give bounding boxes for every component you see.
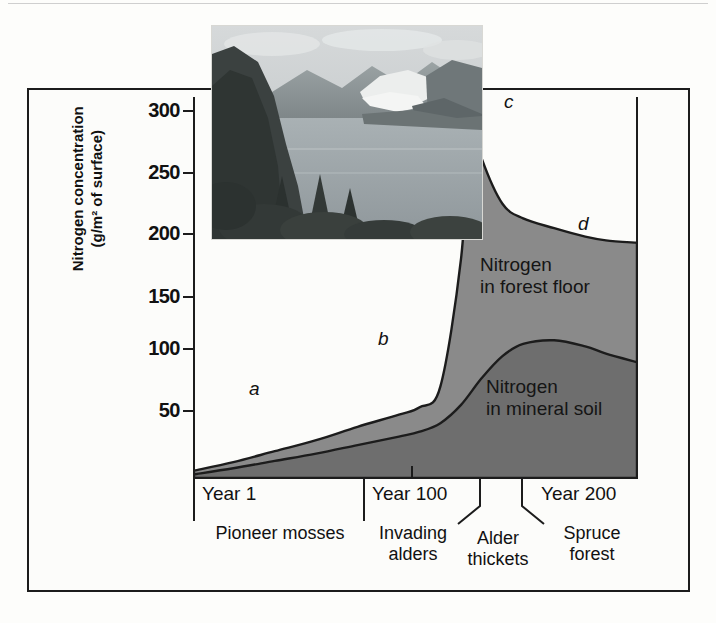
y-axis-title-line1: Nitrogen concentration — [69, 106, 86, 271]
y-tick-label-100: 100 — [124, 337, 180, 360]
series-label-mineral-soil-line1: Nitrogen — [486, 376, 558, 397]
series-label-mineral-soil-line2: in mineral soil — [486, 398, 602, 419]
series-label-forest-floor-line2: in forest floor — [480, 276, 590, 297]
plot-right-border — [636, 97, 638, 479]
stage-leader-lines — [450, 478, 560, 526]
annotation-d: d — [578, 213, 589, 235]
x-tick-label-year-1: Year 1 — [202, 483, 256, 505]
y-tick-label-50: 50 — [124, 399, 180, 422]
annotation-c: c — [504, 91, 514, 113]
x-separator-year1 — [193, 479, 195, 521]
y-axis-line — [193, 97, 195, 479]
series-label-mineral-soil: Nitrogen in mineral soil — [486, 376, 602, 421]
y-tick-label-250: 250 — [124, 161, 180, 184]
stage-label-alder-thickets: Alder thickets — [452, 528, 544, 569]
y-axis-title: Nitrogen concentration (g/m² of surface) — [69, 39, 107, 339]
series-label-forest-floor-line1: Nitrogen — [480, 254, 552, 275]
y-axis-title-line2: (g/m² of surface) — [88, 130, 105, 248]
stage-label-pioneer-mosses: Pioneer mosses — [196, 523, 364, 544]
y-tick-label-150: 150 — [124, 285, 180, 308]
y-tick-label-200: 200 — [124, 222, 180, 245]
x-axis-line — [193, 477, 638, 479]
x-tick-mark-interior — [411, 466, 413, 477]
annotation-b: b — [378, 328, 389, 350]
top-horizontal-rule — [8, 3, 708, 4]
glacier-bay-fjord-photo — [211, 25, 483, 240]
stage-label-invading-alders: Invading alders — [365, 523, 461, 564]
stage-label-spruce-forest: Spruce forest — [546, 523, 638, 564]
series-label-forest-floor: Nitrogen in forest floor — [480, 254, 590, 299]
x-separator-year100 — [363, 479, 365, 521]
y-axis-tick-labels: 300 250 200 150 100 50 — [118, 0, 180, 623]
y-tick-label-300: 300 — [124, 99, 180, 122]
x-tick-label-year-100: Year 100 — [372, 483, 447, 505]
annotation-a: a — [249, 378, 260, 400]
